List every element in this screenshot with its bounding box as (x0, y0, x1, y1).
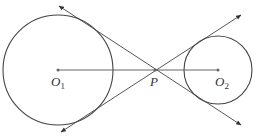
point-o1 (57, 69, 60, 72)
point-p (154, 69, 157, 72)
point-o2 (217, 69, 220, 72)
tangent-line-1 (59, 6, 241, 125)
label-o1: O1 (51, 74, 65, 91)
tangent-circles-diagram: O1 P O2 (0, 0, 262, 137)
label-o2: O2 (215, 74, 229, 91)
label-p: P (149, 74, 158, 89)
